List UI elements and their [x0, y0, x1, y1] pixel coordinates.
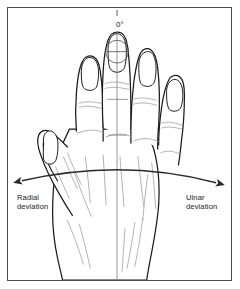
- nail-thumb: [43, 131, 58, 164]
- illustration-frame: 0° Radial deviation Ulnar deviation: [7, 7, 232, 281]
- hand-illustration: [8, 8, 231, 280]
- figure-container: 0° Radial deviation Ulnar deviation: [0, 0, 240, 289]
- neutral-angle-label: 0°: [116, 20, 124, 29]
- nail-little: [167, 79, 183, 111]
- nail-ring: [139, 52, 156, 87]
- ulnar-deviation-label: Ulnar deviation: [186, 194, 217, 211]
- radial-deviation-label: Radial deviation: [17, 194, 48, 211]
- nail-index: [81, 57, 98, 90]
